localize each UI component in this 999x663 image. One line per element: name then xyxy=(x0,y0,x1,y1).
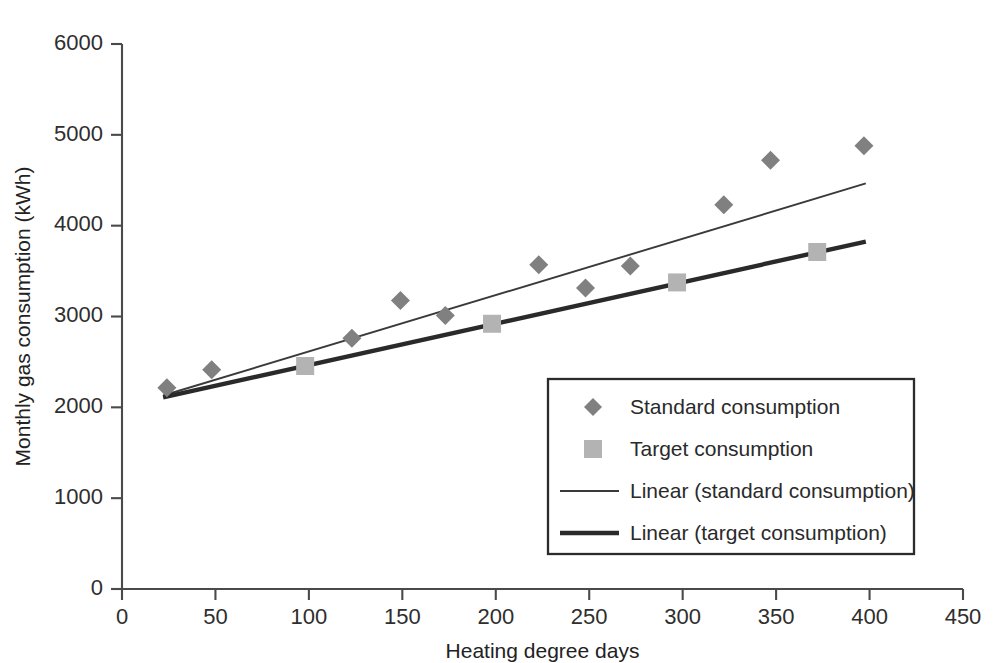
y-tick-label: 2000 xyxy=(54,393,103,418)
data-point-diamond xyxy=(854,136,873,155)
x-tick-label: 200 xyxy=(477,604,514,629)
data-point-diamond xyxy=(529,255,548,274)
y-axis-ticks xyxy=(111,44,122,589)
gas-consumption-scatter-chart: 0100020003000400050006000 Monthly gas co… xyxy=(0,0,999,663)
x-tick-label: 400 xyxy=(851,604,888,629)
data-point-diamond xyxy=(761,151,780,170)
x-tick-label: 350 xyxy=(758,604,795,629)
y-tick-label: 1000 xyxy=(54,484,103,509)
y-tick-label: 5000 xyxy=(54,121,103,146)
data-point-square xyxy=(296,357,314,375)
data-point-square xyxy=(808,243,826,261)
trend-line xyxy=(163,242,866,398)
x-tick-label: 0 xyxy=(116,604,128,629)
x-axis-tick-labels: 050100150200250300350400450 xyxy=(116,604,981,629)
y-axis-group: 0100020003000400050006000 Monthly gas co… xyxy=(11,30,122,600)
trend-lines-group xyxy=(163,183,866,397)
legend-marker-square xyxy=(584,440,602,458)
legend-label: Target consumption xyxy=(630,437,813,460)
y-tick-label: 6000 xyxy=(54,30,103,55)
trend-line xyxy=(163,183,866,395)
x-tick-label: 250 xyxy=(571,604,608,629)
legend-label: Standard consumption xyxy=(630,395,840,418)
data-point-diamond xyxy=(714,195,733,214)
data-point-diamond xyxy=(576,278,595,297)
x-axis-group: 050100150200250300350400450 Heating degr… xyxy=(116,589,981,662)
chart-container: 0100020003000400050006000 Monthly gas co… xyxy=(0,0,999,663)
data-point-diamond xyxy=(391,291,410,310)
data-point-diamond xyxy=(342,329,361,348)
x-axis-ticks xyxy=(122,589,963,600)
data-point-diamond xyxy=(202,360,221,379)
x-tick-label: 300 xyxy=(664,604,701,629)
x-tick-label: 50 xyxy=(203,604,227,629)
y-tick-label: 0 xyxy=(91,575,103,600)
x-axis-title: Heating degree days xyxy=(446,639,640,662)
y-tick-label: 4000 xyxy=(54,211,103,236)
data-point-diamond xyxy=(621,257,640,276)
chart-legend: Standard consumptionTarget consumptionLi… xyxy=(548,379,915,554)
y-tick-label: 3000 xyxy=(54,302,103,327)
data-point-square xyxy=(668,273,686,291)
legend-label: Linear (standard consumption) xyxy=(630,479,915,502)
data-markers-group xyxy=(157,136,873,397)
y-axis-tick-labels: 0100020003000400050006000 xyxy=(54,30,103,600)
y-axis-title: Monthly gas consumption (kWh) xyxy=(11,167,34,467)
data-point-square xyxy=(483,315,501,333)
x-tick-label: 450 xyxy=(945,604,982,629)
legend-label: Linear (target consumption) xyxy=(630,521,887,544)
x-tick-label: 150 xyxy=(384,604,421,629)
x-tick-label: 100 xyxy=(291,604,328,629)
